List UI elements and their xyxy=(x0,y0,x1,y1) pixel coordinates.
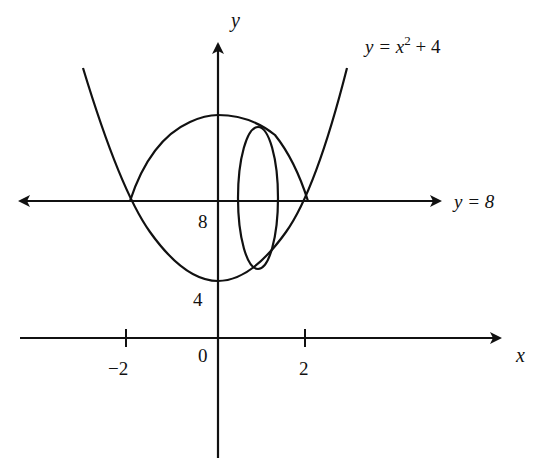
parabola-curve xyxy=(83,68,347,281)
parabola-label-prefix: y = x xyxy=(363,36,405,57)
x-axis-label: x xyxy=(515,344,525,366)
diagram-canvas: y x 0 −2 2 8 4 y = 8 y = x2 + 4 xyxy=(0,0,541,471)
x-tick-label-2: 2 xyxy=(299,358,309,379)
parabola-label: y = x2 + 4 xyxy=(363,33,441,57)
y-tick-label-8: 8 xyxy=(198,211,208,232)
parabola-label-suffix: + 4 xyxy=(411,36,441,57)
y-tick-label-4: 4 xyxy=(193,289,203,310)
line-label: y = 8 xyxy=(452,191,495,212)
cross-section-ellipse xyxy=(238,127,278,269)
origin-label: 0 xyxy=(198,345,208,366)
line-label-text: y = 8 xyxy=(452,191,495,212)
x-tick-label-neg2: −2 xyxy=(108,358,128,379)
y-axis-label: y xyxy=(229,9,240,32)
